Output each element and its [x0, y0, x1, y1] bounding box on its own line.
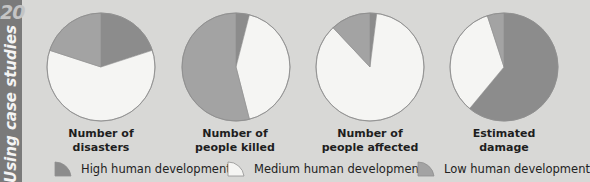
legend-label: Medium human development: [254, 162, 423, 176]
pie-label-line: people affected: [300, 141, 440, 155]
legend-label: Low human development: [444, 162, 590, 176]
pie-label-line: Estimated: [434, 127, 574, 141]
pie-label-line: Number of: [300, 127, 440, 141]
pie-1: [47, 13, 155, 121]
pie-label-line: Number of: [31, 127, 171, 141]
legend-label: High human development: [81, 162, 231, 176]
legend-item-medium: Medium human development: [227, 160, 423, 178]
pie-label-people-killed: Number of people killed: [165, 127, 305, 155]
pie-label-estimated-damage: Estimated damage: [434, 127, 574, 155]
legend-swatch-high-icon: [54, 161, 72, 177]
pie-3: [316, 13, 424, 121]
pie-2: [182, 13, 290, 121]
pie-label-line: Number of: [165, 127, 305, 141]
legend-swatch-medium-icon: [227, 161, 245, 177]
legend-item-high: High human development: [54, 160, 231, 178]
pie-4: [450, 13, 558, 121]
pie-label-disasters: Number of disasters: [31, 127, 171, 155]
legend-swatch-low-icon: [417, 161, 435, 177]
pie-label-people-affected: Number of people affected: [300, 127, 440, 155]
legend-item-low: Low human development: [417, 160, 590, 178]
pie-label-line: damage: [434, 141, 574, 155]
pie-label-line: people killed: [165, 141, 305, 155]
pie-label-line: disasters: [31, 141, 171, 155]
